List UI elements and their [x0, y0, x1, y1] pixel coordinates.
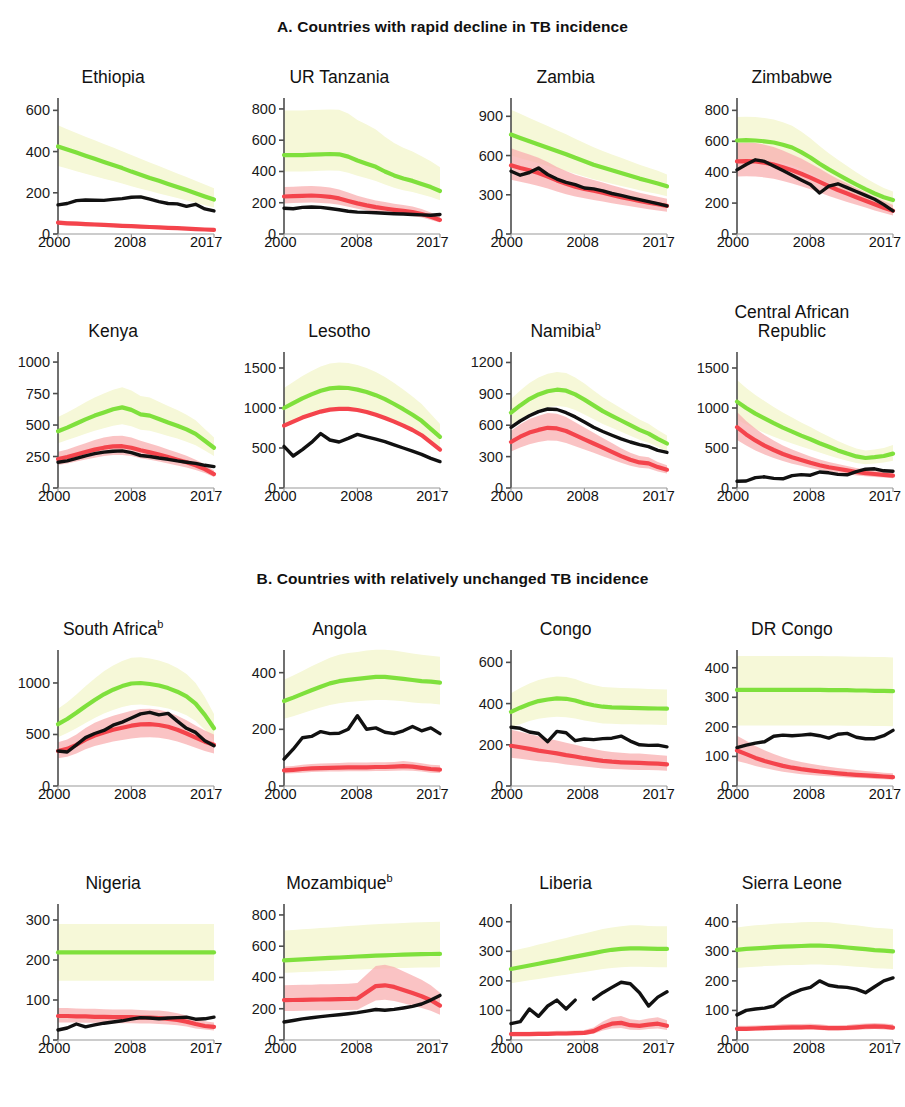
- y-tick-label: 0: [42, 1032, 50, 1048]
- y-tick-label: 500: [26, 417, 50, 433]
- panel-title: Nigeria: [0, 852, 226, 894]
- panel-title: Congo: [453, 598, 679, 640]
- plot-wrapper: 0200400600800: [679, 88, 905, 258]
- plot-wrapper: 0100200300400: [453, 894, 679, 1064]
- y-tick-label: 200: [705, 973, 729, 989]
- black-line: [511, 982, 667, 1023]
- y-tick-label: 200: [478, 973, 502, 989]
- chart-panel: Mozambiqueb0200400600800200020082017: [226, 852, 452, 1056]
- plot-area: 02505007501000: [0, 342, 226, 518]
- panel-title: Namibiab: [453, 300, 679, 342]
- plot-wrapper: 0200400600: [453, 640, 679, 810]
- panel-title: Mozambiqueb: [226, 852, 452, 894]
- chart-panel: Namibiab03006009001200200020082017: [453, 300, 679, 504]
- panel-title-footnote-marker: b: [595, 320, 601, 332]
- panel-title: Kenya: [0, 300, 226, 342]
- green-uncertainty-band: [284, 922, 440, 973]
- y-tick-label: 300: [478, 943, 502, 959]
- y-tick-label: 0: [721, 480, 729, 496]
- plot-wrapper: 050010001500: [679, 342, 905, 512]
- y-tick-label: 600: [478, 417, 502, 433]
- y-tick-label: 1000: [18, 354, 50, 370]
- y-tick-label: 600: [252, 938, 276, 954]
- panel-row-a2: Kenya02505007501000200020082017Lesotho05…: [0, 300, 905, 504]
- plot-area: 0200400600800: [226, 894, 452, 1070]
- chart-panel: Ethiopia0200400600200020082017: [0, 46, 226, 250]
- y-tick-label: 0: [268, 778, 276, 794]
- y-tick-label: 0: [721, 226, 729, 242]
- y-tick-label: 400: [252, 665, 276, 681]
- y-tick-label: 0: [494, 226, 502, 242]
- y-tick-label: 200: [252, 1001, 276, 1017]
- y-tick-label: 200: [705, 195, 729, 211]
- plot-area: 0200400600800: [226, 88, 452, 264]
- y-tick-label: 1000: [696, 400, 728, 416]
- plot-wrapper: 02505007501000: [0, 342, 226, 512]
- y-tick-label: 0: [494, 480, 502, 496]
- y-tick-label: 800: [705, 102, 729, 118]
- y-tick-label: 400: [252, 969, 276, 985]
- plot-area: 0100200300400: [679, 640, 905, 816]
- green-uncertainty-band: [284, 650, 440, 719]
- y-tick-label: 600: [252, 132, 276, 148]
- plot-area: 0200400: [226, 640, 452, 816]
- chart-panel: Congo0200400600200020082017: [453, 598, 679, 802]
- y-tick-label: 500: [705, 440, 729, 456]
- panel-title: Angola: [226, 598, 452, 640]
- plot-wrapper: 0100200300400: [679, 894, 905, 1064]
- y-tick-label: 0: [721, 778, 729, 794]
- y-tick-label: 0: [494, 778, 502, 794]
- chart-panel: Zimbabwe0200400600800200020082017: [679, 46, 905, 250]
- y-tick-label: 400: [705, 164, 729, 180]
- y-tick-label: 100: [705, 1002, 729, 1018]
- y-tick-label: 500: [26, 726, 50, 742]
- plot-wrapper: 0200400: [226, 640, 452, 810]
- plot-wrapper: 0200400600800: [226, 894, 452, 1064]
- y-tick-label: 200: [26, 185, 50, 201]
- panel-a-title: A. Countries with rapid decline in TB in…: [0, 18, 905, 36]
- y-tick-label: 0: [42, 778, 50, 794]
- black-line: [284, 434, 440, 462]
- chart-panel: Kenya02505007501000200020082017: [0, 300, 226, 504]
- panel-title: Zimbabwe: [679, 46, 905, 88]
- plot-wrapper: 0200400600800: [226, 88, 452, 258]
- y-tick-label: 0: [721, 1032, 729, 1048]
- chart-panel: Zambia0300600900200020082017: [453, 46, 679, 250]
- panel-title: Lesotho: [226, 300, 452, 342]
- plot-area: 0200400600: [453, 640, 679, 816]
- panel-title: Zambia: [453, 46, 679, 88]
- y-tick-label: 0: [42, 226, 50, 242]
- plot-area: 03006009001200: [453, 342, 679, 518]
- plot-area: 0300600900: [453, 88, 679, 264]
- green-uncertainty-band: [58, 125, 214, 207]
- y-tick-label: 600: [26, 102, 50, 118]
- y-tick-label: 0: [268, 1032, 276, 1048]
- y-tick-label: 200: [478, 737, 502, 753]
- plot-wrapper: 03006009001200: [453, 342, 679, 512]
- y-tick-label: 400: [705, 660, 729, 676]
- panel-title-footnote-marker: b: [157, 618, 163, 630]
- y-tick-label: 400: [478, 914, 502, 930]
- y-tick-label: 400: [26, 144, 50, 160]
- y-tick-label: 100: [705, 748, 729, 764]
- black-line: [737, 978, 893, 1015]
- y-tick-label: 0: [268, 480, 276, 496]
- plot-area: 0100200300400: [453, 894, 679, 1070]
- panel-title: DR Congo: [679, 598, 905, 640]
- panel-title: Liberia: [453, 852, 679, 894]
- y-tick-label: 300: [705, 943, 729, 959]
- panel-title: South Africab: [0, 598, 226, 640]
- chart-panel: UR Tanzania0200400600800200020082017: [226, 46, 452, 250]
- chart-panel: DR Congo0100200300400200020082017: [679, 598, 905, 802]
- plot-wrapper: 0100200300400: [679, 640, 905, 810]
- y-tick-label: 300: [478, 449, 502, 465]
- y-tick-label: 600: [705, 133, 729, 149]
- y-tick-label: 1500: [244, 360, 276, 376]
- y-tick-label: 600: [478, 654, 502, 670]
- plot-area: 050010001500: [679, 342, 905, 518]
- y-tick-label: 800: [252, 101, 276, 117]
- red-line: [737, 1026, 893, 1028]
- chart-panel: South Africab05001000200020082017: [0, 598, 226, 802]
- panel-title: Central AfricanRepublic: [679, 300, 905, 342]
- panel-title: UR Tanzania: [226, 46, 452, 88]
